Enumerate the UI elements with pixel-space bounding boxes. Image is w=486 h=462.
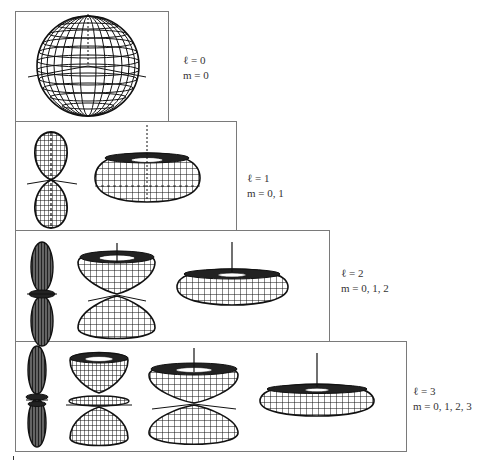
corner-tick-mark <box>13 456 14 460</box>
orbital-shapes-canvas <box>0 0 486 462</box>
orbital-l1-m1-torus <box>95 125 200 202</box>
orbital-l3-m0-lobes <box>26 346 48 447</box>
orbital-l3-m2-double-bowl <box>149 348 238 444</box>
orbital-l2-m2-flat-torus <box>177 242 288 305</box>
sphere-l0-m0 <box>28 14 146 116</box>
orbital-l1-m0-dumbbell <box>27 132 77 228</box>
orbital-l2-m0-lobes <box>27 242 57 346</box>
orbital-l2-m1-double-bowl <box>78 243 155 339</box>
orbital-l3-m1-hourglass <box>66 353 132 446</box>
orbital-l3-m3-flat-torus <box>260 353 374 416</box>
